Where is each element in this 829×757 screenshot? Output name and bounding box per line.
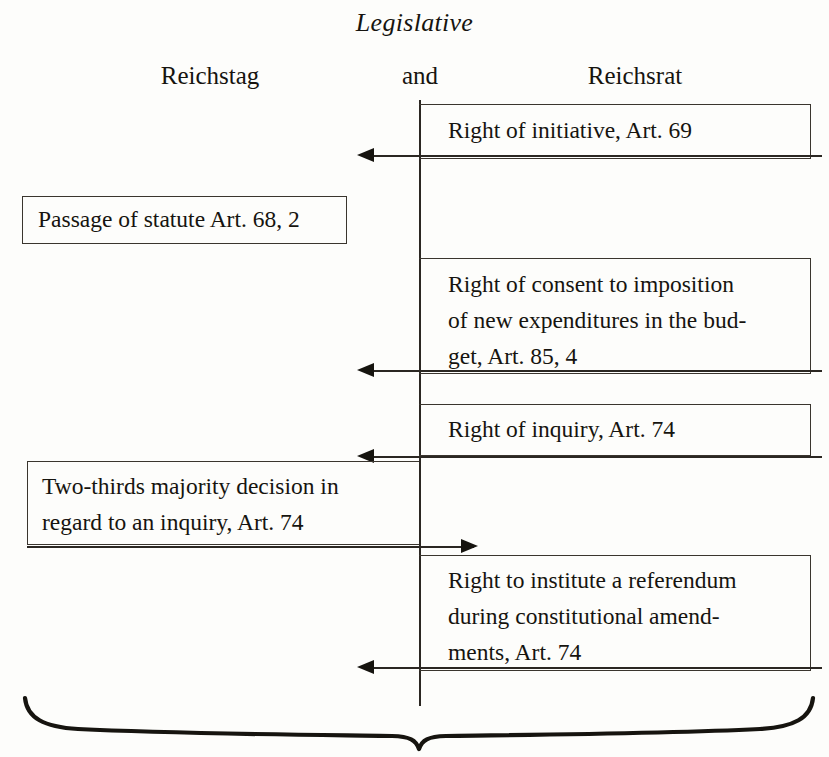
- arrow-line-right-of-initiative: [370, 155, 822, 157]
- arrow-head-two-thirds-majority-inquiry: [461, 539, 478, 553]
- label-right-of-initiative: Right of initiative, Art. 69: [448, 112, 808, 148]
- arrow-head-right-of-initiative: [357, 148, 374, 162]
- column-heading-reichstag: Reichstag: [95, 62, 325, 90]
- page-title: Legislative: [0, 8, 829, 38]
- label-right-of-consent-budget: Right of consent to imposition of new ex…: [448, 266, 808, 374]
- arrow-line-two-thirds-majority-inquiry: [27, 546, 474, 548]
- label-two-thirds-majority-inquiry: Two-thirds majority decision in regard t…: [42, 468, 422, 540]
- label-passage-of-statute: Passage of statute Art. 68, 2: [38, 201, 343, 237]
- label-right-of-inquiry: Right of inquiry, Art. 74: [448, 411, 808, 447]
- arrow-head-right-of-consent-budget: [357, 363, 374, 377]
- column-conjunction-and: and: [370, 62, 470, 90]
- arrow-line-right-to-institute-referendum: [370, 667, 822, 669]
- label-right-to-institute-referendum: Right to institute a referendum during c…: [448, 562, 808, 670]
- bottom-curly-brace: [0, 688, 829, 757]
- arrow-head-right-to-institute-referendum: [357, 660, 374, 674]
- legislative-diagram: Legislative Reichstag and Reichsrat Righ…: [0, 0, 829, 757]
- arrow-line-right-of-inquiry: [370, 456, 822, 458]
- column-heading-reichsrat: Reichsrat: [520, 62, 750, 90]
- arrow-line-right-of-consent-budget: [370, 370, 822, 372]
